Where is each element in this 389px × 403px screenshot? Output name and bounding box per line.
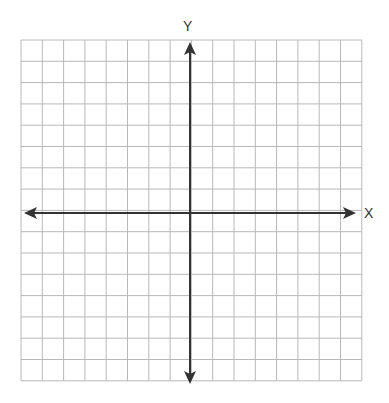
y-axis-label: Y bbox=[183, 18, 192, 34]
x-axis-label: X bbox=[364, 205, 373, 221]
coordinate-grid bbox=[0, 0, 389, 403]
